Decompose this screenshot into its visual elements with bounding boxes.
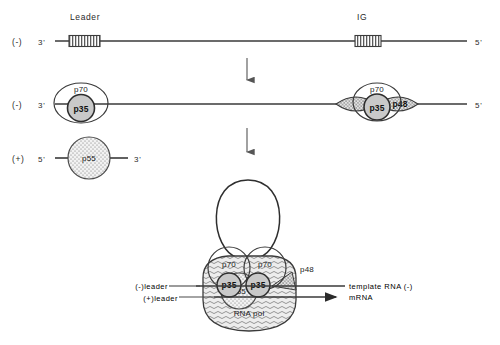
row3-right-terminus: 3' xyxy=(134,155,142,164)
row3-positive-leader: (+) 5' 3' p55 xyxy=(12,137,142,179)
row1-ig-label: IG xyxy=(357,12,367,22)
ig-hatched-box xyxy=(355,36,381,47)
negative-leader-label: (-)leader xyxy=(135,282,168,291)
figure-canvas: (-) 3' 5' Leader IG (-) 3' 5' p70 p35 xyxy=(0,0,500,345)
row1-leader-label: Leader xyxy=(70,12,100,22)
row4-p70-label-1: p70 xyxy=(222,260,236,269)
row1-right-terminus: 5' xyxy=(475,38,483,47)
leader-hatched-box xyxy=(69,36,100,47)
row2-right-p70-label: p70 xyxy=(370,85,384,94)
row4-p35-label-2: p35 xyxy=(250,280,265,290)
row3-polarity-label: (+) xyxy=(12,154,24,164)
row2-right-p35-label: p35 xyxy=(369,103,384,113)
row4-p35-label-1: p35 xyxy=(221,280,236,290)
row1-left-terminus: 3' xyxy=(38,38,46,47)
row1-negative-template: (-) 3' 5' Leader IG xyxy=(12,12,483,47)
row2-right-terminus: 5' xyxy=(475,101,483,110)
row2-left-complex: p70 p35 xyxy=(54,83,108,123)
row1-ig-feature: IG xyxy=(355,12,381,47)
template-rna-label: template RNA (-) xyxy=(349,282,413,291)
row4-p48-label: p48 xyxy=(300,265,314,274)
row2-polarity-label: (-) xyxy=(12,100,22,110)
row2-left-p70-label: p70 xyxy=(74,85,88,94)
row1-leader-feature: Leader xyxy=(69,12,100,47)
rna-loop xyxy=(216,180,279,258)
row3-left-terminus: 5' xyxy=(38,155,46,164)
mrna-label: mRNA xyxy=(349,293,373,302)
row2-negative-with-proteins: (-) 3' 5' p70 p35 p48 p70 p35 xyxy=(12,83,483,123)
row2-left-terminus: 3' xyxy=(38,101,46,110)
row4-transcription-complex: RNA pol p55 p48 p70 p35 p70 p35 template… xyxy=(135,180,413,331)
row3-p55-label: p55 xyxy=(82,154,96,163)
row2-right-complex: p48 p70 p35 xyxy=(336,83,418,121)
rna-pol-label: RNA pol xyxy=(234,309,265,318)
row2-left-p35-label: p35 xyxy=(73,104,88,114)
row1-polarity-label: (-) xyxy=(12,37,22,47)
positive-leader-label: (+)leader xyxy=(143,294,178,303)
row4-p70-label-2: p70 xyxy=(258,260,272,269)
